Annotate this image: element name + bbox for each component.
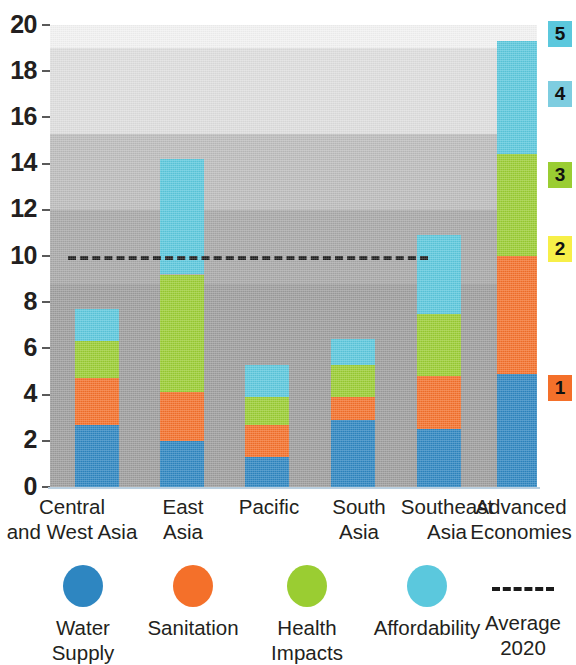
y-axis-tick-mark	[42, 116, 50, 118]
y-axis-tick-label: 20	[10, 12, 37, 37]
bar-segment-water-supply	[245, 457, 289, 487]
side-marker-4: 4	[548, 81, 572, 107]
bar-advanced-economies	[497, 41, 537, 487]
bar-segment-affordability	[417, 235, 461, 314]
bar-segment-water-supply	[497, 374, 537, 487]
y-axis-tick-label: 2	[24, 427, 37, 452]
x-axis-labels: Central and West AsiaEast AsiaPacificSou…	[0, 494, 576, 550]
y-axis-tick-mark	[42, 301, 50, 303]
legend-label: Health Impacts	[252, 615, 362, 665]
bar-segment-affordability	[331, 339, 375, 364]
y-axis-tick-mark	[42, 347, 50, 349]
bar-segment-health-impacts	[497, 154, 537, 256]
y-axis-tick-mark	[42, 255, 50, 257]
bar-segment-water-supply	[75, 425, 119, 487]
x-axis-line	[48, 487, 540, 489]
y-axis-tick-mark	[42, 70, 50, 72]
y-axis-tick-mark	[42, 163, 50, 165]
bar-segment-sanitation	[331, 397, 375, 420]
y-axis-tick-mark	[42, 394, 50, 396]
bar-segment-sanitation	[245, 425, 289, 457]
background-band-2	[50, 210, 537, 284]
bar-southeast-asia	[417, 235, 461, 487]
y-axis-tick-label: 16	[10, 104, 37, 129]
legend-swatch-dot-icon	[63, 565, 103, 607]
y-axis-tick-label: 18	[10, 58, 37, 83]
y-axis-tick-label: 4	[24, 381, 37, 406]
bar-segment-health-impacts	[245, 397, 289, 425]
bar-south-asia	[331, 339, 375, 487]
bar-segment-sanitation	[160, 392, 204, 441]
bar-segment-affordability	[497, 41, 537, 154]
bar-segment-affordability	[245, 365, 289, 397]
legend-swatch-dot-icon	[173, 565, 213, 607]
background-band-1	[50, 284, 537, 487]
bar-segment-water-supply	[417, 429, 461, 487]
chart-legend: Water SupplySanitationHealth ImpactsAffo…	[0, 565, 576, 662]
x-axis-label-5: Advanced Economies	[466, 494, 576, 544]
plot-area	[50, 25, 537, 487]
legend-swatch-dot-icon	[287, 565, 327, 607]
x-axis-label-3: South Asia	[318, 494, 400, 544]
side-marker-2: 2	[548, 236, 572, 262]
bar-segment-health-impacts	[417, 314, 461, 376]
y-axis-tick-mark	[42, 440, 50, 442]
legend-swatch-dashed-line-icon	[492, 587, 554, 591]
y-axis-tick-label: 14	[10, 150, 37, 175]
bar-pacific	[245, 365, 289, 487]
bar-segment-water-supply	[160, 441, 204, 487]
bar-central-and-west-asia	[75, 309, 119, 487]
background-band-5	[50, 25, 537, 48]
legend-item-water-supply: Water Supply	[28, 565, 138, 665]
side-marker-3: 3	[548, 162, 572, 188]
legend-item-sanitation: Sanitation	[128, 565, 258, 640]
y-axis-tick-label: 6	[24, 335, 37, 360]
y-axis-tick-label: 10	[10, 243, 37, 268]
legend-label: Water Supply	[28, 615, 138, 665]
average-2020-reference-line	[68, 256, 428, 260]
background-band-3	[50, 134, 537, 210]
bar-segment-sanitation	[417, 376, 461, 429]
y-axis-tick-label: 8	[24, 289, 37, 314]
side-marker-5: 5	[548, 21, 572, 47]
bar-segment-affordability	[75, 309, 119, 341]
bar-segment-sanitation	[497, 256, 537, 374]
background-band-4	[50, 48, 537, 133]
y-axis-tick-mark	[42, 24, 50, 26]
y-axis-tick-mark	[42, 209, 50, 211]
side-marker-1: 1	[548, 375, 572, 401]
bar-segment-health-impacts	[75, 341, 119, 378]
x-axis-label-2: Pacific	[222, 494, 316, 519]
side-numbered-markers: 54321	[548, 0, 576, 500]
bar-east-asia	[160, 159, 204, 487]
legend-item-health-impacts: Health Impacts	[252, 565, 362, 665]
bar-segment-health-impacts	[331, 365, 375, 397]
x-axis-label-1: East Asia	[140, 494, 226, 544]
y-axis: 02468101214161820	[0, 0, 50, 500]
bar-segment-health-impacts	[160, 275, 204, 393]
legend-swatch-dot-icon	[407, 565, 447, 607]
legend-label: Sanitation	[128, 615, 258, 640]
bar-segment-water-supply	[331, 420, 375, 487]
x-axis-label-0: Central and West Asia	[2, 494, 142, 544]
legend-item-average-2020: Average 2020	[470, 565, 576, 660]
legend-label: Average 2020	[470, 610, 576, 660]
bar-segment-sanitation	[75, 378, 119, 424]
y-axis-tick-label: 12	[10, 196, 37, 221]
